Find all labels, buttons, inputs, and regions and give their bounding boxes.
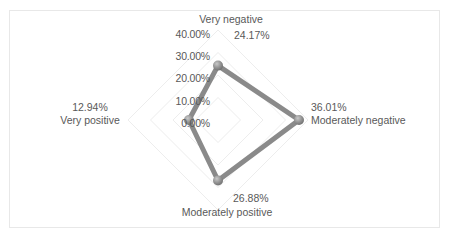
category-name-very-negative: Very negative — [156, 13, 306, 26]
axis-tick-10: 10.00% — [132, 95, 210, 107]
value-text-very-negative: 24.17% — [234, 29, 270, 42]
data-point-very-negative — [213, 61, 223, 71]
category-name-very-positive: Very positive — [47, 114, 133, 127]
category-name-moderately-positive: Moderately positive — [152, 206, 302, 219]
value-text-very-positive: 12.94% — [47, 101, 133, 114]
axis-tick-20: 20.00% — [132, 72, 210, 84]
category-label-moderately-positive: Moderately positive — [152, 206, 302, 219]
axis-tick-30: 30.00% — [132, 50, 210, 62]
axis-tick-0: 0.00% — [132, 117, 210, 129]
axis-tick-40: 40.00% — [132, 28, 210, 40]
category-label-very-positive: 12.94% Very positive — [47, 101, 133, 127]
category-label-very-negative: Very negative — [156, 13, 306, 26]
category-label-moderately-negative: 36.01% Moderately negative — [311, 101, 406, 127]
value-text-moderately-positive: 26.88% — [233, 192, 269, 205]
value-text-moderately-negative: 36.01% — [311, 101, 406, 114]
data-point-moderately-positive — [213, 176, 223, 186]
category-value-moderately-positive: 26.88% — [233, 192, 269, 205]
category-value-very-negative: 24.17% — [234, 29, 270, 42]
data-point-moderately-negative — [294, 115, 304, 125]
category-name-moderately-negative: Moderately negative — [311, 114, 406, 127]
